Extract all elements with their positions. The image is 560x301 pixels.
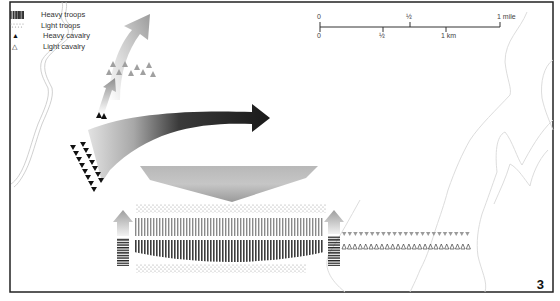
scale-mile-end: 1 mile (497, 13, 516, 20)
cavalry-rows-right (342, 232, 470, 249)
heavy-troops-line-1 (134, 218, 324, 236)
scale-bar-lines (0, 0, 560, 60)
left-flank-arrow (113, 210, 133, 236)
right-flank-block (328, 236, 340, 266)
scale-mile-half: ½ (406, 13, 412, 20)
plate-number: 3 (537, 277, 544, 292)
scale-km-half: ½ (379, 32, 385, 39)
right-flank-arrow (324, 210, 344, 234)
left-flank-block (117, 238, 129, 266)
scale-km-zero: 0 (317, 32, 321, 39)
heavy-troops-line-2 (134, 240, 324, 262)
infantry-wedge (140, 166, 318, 202)
light-troops-rear (136, 264, 306, 273)
scale-mile-zero: 0 (317, 13, 321, 20)
scale-km-end: 1 km (441, 32, 456, 39)
light-troops-front (136, 204, 326, 213)
